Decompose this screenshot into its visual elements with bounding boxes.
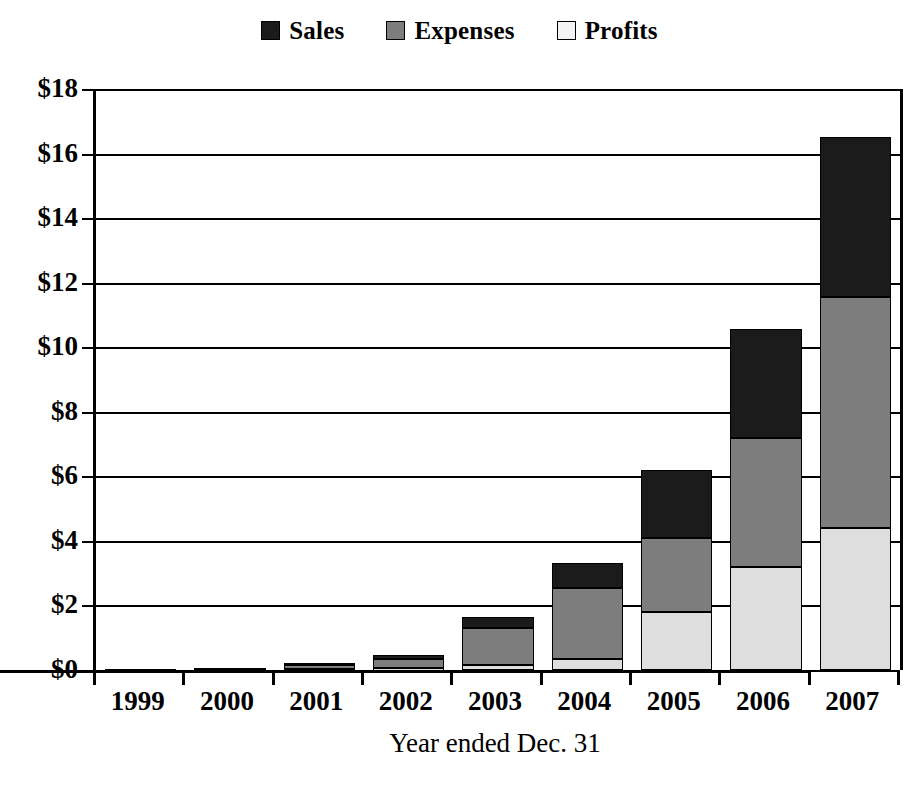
chart-canvas: $18$16$14$12$10$8$6$4$2$0 19992000200120… <box>0 0 919 785</box>
x-axis-tick-label-2000: 2000 <box>182 688 271 715</box>
y-axis-tick <box>82 476 93 478</box>
bar-segment-sales-2005[interactable] <box>641 470 712 538</box>
bar-group-1999[interactable] <box>105 89 176 670</box>
y-axis-tick <box>82 541 93 543</box>
y-axis-tick <box>82 89 93 91</box>
y-axis-tick-label: $14 <box>38 204 79 231</box>
y-axis-tick-label: $16 <box>38 140 79 167</box>
bar-segment-profits-2005[interactable] <box>641 612 712 670</box>
y-axis-tick <box>82 283 93 285</box>
y-axis-tick-label: $12 <box>38 269 79 296</box>
y-axis-tick-label: $10 <box>38 333 79 360</box>
x-axis-tick-label-2005: 2005 <box>629 688 718 715</box>
y-axis-tick <box>82 347 93 349</box>
x-axis-tick <box>897 670 900 685</box>
x-axis-tick-label-2001: 2001 <box>272 688 361 715</box>
x-axis-tick <box>540 670 543 685</box>
y-axis-tick-label: $4 <box>51 527 78 554</box>
x-axis-tick-label-2007: 2007 <box>808 688 897 715</box>
x-axis-line <box>0 670 808 673</box>
x-axis-tick <box>450 670 453 685</box>
y-axis-tick-label: $8 <box>51 398 78 425</box>
x-axis-title: Year ended Dec. 31 <box>93 730 897 757</box>
bar-segment-expenses-2007[interactable] <box>820 297 891 528</box>
x-axis-tick-label-2006: 2006 <box>718 688 807 715</box>
x-axis-tick <box>629 670 632 685</box>
bar-group-2000[interactable] <box>194 89 265 670</box>
bar-segment-profits-2006[interactable] <box>730 567 801 670</box>
bar-segment-expenses-2003[interactable] <box>462 628 533 665</box>
bar-group-2004[interactable] <box>552 89 623 670</box>
y-axis-tick-label: $6 <box>51 462 78 489</box>
bar-segment-expenses-2002[interactable] <box>373 659 444 668</box>
y-axis-tick <box>82 412 93 414</box>
bar-segment-sales-2007[interactable] <box>820 137 891 297</box>
bar-segment-sales-2003[interactable] <box>462 617 533 628</box>
bar-segment-profits-2004[interactable] <box>552 659 623 670</box>
x-axis-tick <box>718 670 721 685</box>
bar-group-2001[interactable] <box>284 89 355 670</box>
y-axis-tick-label: $18 <box>38 75 79 102</box>
bar-group-2002[interactable] <box>373 89 444 670</box>
bar-segment-expenses-2001[interactable] <box>284 665 355 669</box>
y-axis-labels: $18$16$14$12$10$8$6$4$2$0 <box>0 0 78 785</box>
x-axis-tick-label-2003: 2003 <box>450 688 539 715</box>
bar-group-2003[interactable] <box>462 89 533 670</box>
x-axis-tick <box>182 670 185 685</box>
x-axis-tick <box>272 670 275 685</box>
bar-segment-expenses-2005[interactable] <box>641 538 712 612</box>
bar-group-2007[interactable] <box>820 89 891 670</box>
bar-segment-sales-2004[interactable] <box>552 563 623 587</box>
x-axis-tick <box>808 670 811 685</box>
y-axis-tick <box>82 218 93 220</box>
x-axis-tick-label-2002: 2002 <box>361 688 450 715</box>
bar-segment-sales-2001[interactable] <box>284 663 355 666</box>
bar-segment-expenses-2004[interactable] <box>552 588 623 659</box>
y-axis-tick-label: $2 <box>51 591 78 618</box>
bar-segment-profits-2007[interactable] <box>820 528 891 670</box>
plot-area <box>93 89 903 670</box>
y-axis-tick <box>82 154 93 156</box>
y-axis-tick <box>82 605 93 607</box>
bar-group-2005[interactable] <box>641 89 712 670</box>
x-axis-tick <box>93 670 96 685</box>
bar-segment-sales-2006[interactable] <box>730 329 801 437</box>
bar-segment-expenses-2006[interactable] <box>730 438 801 567</box>
x-axis-tick-label-1999: 1999 <box>93 688 182 715</box>
x-axis-tick <box>361 670 364 685</box>
x-axis-tick-label-2004: 2004 <box>540 688 629 715</box>
bar-group-2006[interactable] <box>730 89 801 670</box>
bar-segment-sales-2002[interactable] <box>373 655 444 659</box>
